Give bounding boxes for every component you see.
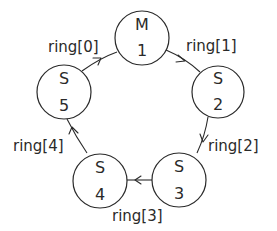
edge-label-ring-3: ring[3]	[112, 207, 163, 225]
node-id-label: 3	[174, 184, 184, 203]
node-role-label: M	[135, 15, 149, 34]
node-role-label: S	[213, 69, 223, 88]
ring-diagram: M 1 S 2 S 3 S 4 S 5 ring[0] ring[1] ring…	[0, 0, 277, 231]
node-id-label: 4	[95, 185, 105, 204]
edge-label-ring-1: ring[1]	[186, 37, 237, 55]
edge-ring-4	[67, 119, 87, 153]
node-id-label: 5	[59, 96, 69, 115]
edge-label-ring-2: ring[2]	[208, 137, 259, 155]
edge-label-ring-0: ring[0]	[48, 38, 99, 56]
node-slave-5: S 5	[37, 65, 91, 119]
node-role-label: S	[95, 158, 105, 177]
node-slave-3: S 3	[152, 153, 206, 207]
edge-ring-2	[197, 117, 208, 153]
node-role-label: S	[59, 69, 69, 88]
node-role-label: S	[174, 157, 184, 176]
node-slave-2: S 2	[192, 66, 244, 118]
edge-label-ring-4: ring[4]	[13, 137, 64, 155]
node-slave-4: S 4	[73, 154, 127, 208]
node-id-label: 2	[213, 95, 223, 114]
edge-ring-3	[127, 176, 152, 184]
node-id-label: 1	[137, 41, 147, 60]
node-master-1: M 1	[115, 11, 169, 65]
